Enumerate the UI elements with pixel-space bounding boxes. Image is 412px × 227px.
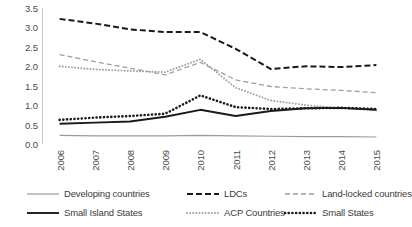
y-axis-tick-label: 2.5 [25,41,38,52]
y-axis-tick-label: 3.0 [25,22,38,33]
y-axis: 0.00.51.01.52.02.53.03.5 [0,0,38,160]
plot-area [42,8,394,144]
legend-row: Developing countriesLDCsLand-locked coun… [26,186,388,201]
x-axis-tick-label: 2006 [55,150,66,171]
legend-item-land-locked-countries[interactable]: Land-locked countries [284,186,412,201]
legend-swatch-icon [26,208,60,218]
series-line-ldcs [60,19,377,69]
legend-label: Land-locked countries [322,188,412,199]
legend-label: Small Island States [64,207,142,218]
legend-swatch-icon [284,189,318,199]
legend-swatch-icon [284,208,318,218]
x-axis: 2006200720082009201020112012201320142015 [42,150,394,188]
x-axis-tick-label: 2009 [160,150,171,171]
legend-item-acp-countries[interactable]: ACP Countries [186,205,285,220]
y-axis-tick-label: 1.0 [25,100,38,111]
series-canvas [42,8,394,144]
legend-label: Small States [322,207,374,218]
legend-swatch-icon [186,208,220,218]
y-axis-tick-label: 3.5 [25,3,38,14]
x-axis-tick-label: 2013 [301,150,312,171]
x-axis-tick-label: 2014 [336,150,347,171]
legend-label: Developing countries [64,188,150,199]
chart-legend: Developing countriesLDCsLand-locked coun… [26,186,388,224]
x-axis-tick-label: 2008 [125,150,136,171]
legend-row: Small Island StatesACP CountriesSmall St… [26,205,388,220]
legend-item-developing-countries[interactable]: Developing countries [26,186,150,201]
y-axis-tick-label: 2.0 [25,61,38,72]
legend-item-small-states[interactable]: Small States [284,205,374,220]
series-line-land-locked-countries [60,55,377,93]
legend-label: LDCs [224,188,247,199]
x-axis-tick-label: 2011 [231,150,242,170]
legend-swatch-icon [186,189,220,199]
legend-swatch-icon [26,189,60,199]
x-axis-tick-label: 2010 [195,150,206,171]
legend-item-small-island-states[interactable]: Small Island States [26,205,142,220]
x-axis-tick-label: 2015 [371,150,382,171]
legend-item-ldcs[interactable]: LDCs [186,186,247,201]
legend-label: ACP Countries [224,207,285,218]
x-axis-tick-label: 2012 [266,150,277,171]
y-axis-tick-label: 0.5 [25,119,38,130]
x-axis-tick-label: 2007 [90,150,101,171]
series-line-developing-countries [60,135,377,137]
y-axis-tick-label: 1.5 [25,80,38,91]
y-axis-tick-label: 0.0 [25,139,38,150]
